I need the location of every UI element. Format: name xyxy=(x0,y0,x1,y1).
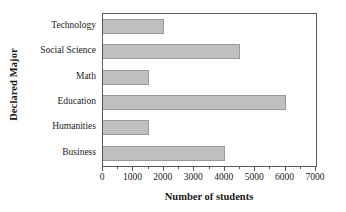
y-axis-tick-label: Humanities xyxy=(52,122,96,132)
y-axis-tick-label-row: Education xyxy=(22,89,100,114)
bar-row xyxy=(103,115,316,140)
x-axis-minor-tick xyxy=(239,166,240,169)
x-axis-tick-labels: 01000200030004000500060007000 xyxy=(102,173,316,187)
x-axis-minor-tick xyxy=(209,166,210,169)
bar-education xyxy=(103,95,286,110)
bar-row xyxy=(103,65,316,90)
bar-row xyxy=(103,90,316,115)
bars-container xyxy=(103,14,316,166)
y-axis-tick-label-row: Business xyxy=(22,140,100,165)
x-axis-tick-label: 5000 xyxy=(245,173,264,183)
y-axis-tick-label: Math xyxy=(76,72,96,82)
x-axis-major-tick xyxy=(254,166,255,171)
y-axis-title: Declared Major xyxy=(8,48,19,121)
y-axis-tick-label-row: Social Science xyxy=(22,38,100,63)
bar-row xyxy=(103,141,316,166)
x-axis-minor-tick xyxy=(300,166,301,169)
x-axis-major-tick xyxy=(102,166,103,171)
bar-business xyxy=(103,146,225,161)
bar-row xyxy=(103,39,316,64)
x-axis-tick-label: 0 xyxy=(100,173,105,183)
x-axis-minor-tick xyxy=(148,166,149,169)
x-axis-tick-label: 7000 xyxy=(306,173,325,183)
bar-technology xyxy=(103,19,164,34)
x-axis-tick-label: 2000 xyxy=(153,173,172,183)
bar-social-science xyxy=(103,44,240,59)
y-axis-tick-label-row: Humanities xyxy=(22,114,100,139)
y-axis-category-labels: Technology Social Science Math Education… xyxy=(22,13,100,165)
x-axis-major-tick xyxy=(193,166,194,171)
bar-chart-figure: Declared Major Technology Social Science… xyxy=(0,0,346,212)
x-axis-major-tick xyxy=(132,166,133,171)
x-axis-minor-tick xyxy=(178,166,179,169)
x-axis-title: Number of students xyxy=(102,191,316,202)
x-axis-tick-label: 3000 xyxy=(184,173,203,183)
y-axis-tick-label: Social Science xyxy=(40,46,96,56)
bar-row xyxy=(103,14,316,39)
x-axis-major-tick xyxy=(315,166,316,171)
x-axis-minor-tick xyxy=(269,166,270,169)
plot-area xyxy=(102,13,317,167)
y-axis-tick-label-row: Technology xyxy=(22,13,100,38)
x-axis-major-tick xyxy=(163,166,164,171)
bar-math xyxy=(103,70,149,85)
x-axis-tick-label: 4000 xyxy=(214,173,233,183)
y-axis-tick-label: Technology xyxy=(51,21,96,31)
y-axis-tick-label-row: Math xyxy=(22,64,100,89)
y-axis-tick-label: Business xyxy=(62,148,96,158)
x-axis-major-tick xyxy=(285,166,286,171)
y-axis-tick-label: Education xyxy=(57,97,96,107)
x-axis-minor-tick xyxy=(117,166,118,169)
x-axis-tick-label: 6000 xyxy=(275,173,294,183)
x-axis-tick-label: 1000 xyxy=(123,173,142,183)
x-axis-major-tick xyxy=(224,166,225,171)
bar-humanities xyxy=(103,120,149,135)
